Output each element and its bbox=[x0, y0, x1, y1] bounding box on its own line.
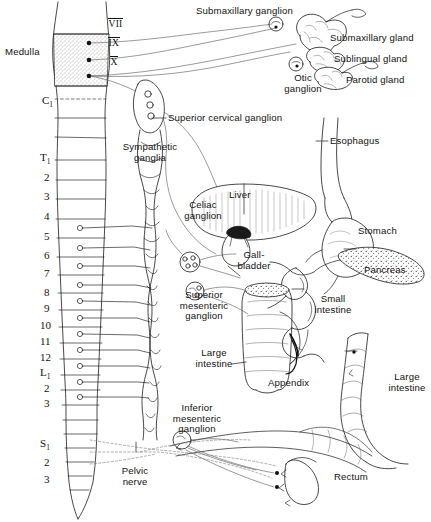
large-intestine-center bbox=[242, 283, 308, 393]
sympathetic-chain bbox=[138, 130, 163, 440]
liver bbox=[192, 184, 316, 240]
esophagus bbox=[321, 118, 352, 222]
autonomic-nervous-system-figure: Medulla VII IX X Submaxillary ganglion O… bbox=[0, 0, 431, 522]
rectum bbox=[275, 458, 319, 507]
colon-sigmoid-sweep bbox=[170, 427, 372, 472]
diagram-artwork bbox=[0, 0, 431, 522]
pancreas bbox=[292, 247, 424, 284]
large-intestine-right bbox=[341, 333, 408, 469]
superior-mesenteric-ganglion bbox=[186, 282, 248, 314]
cord-segment-lines bbox=[55, 118, 106, 490]
gallbladder bbox=[222, 226, 251, 266]
otic-ganglion-symbol bbox=[289, 57, 303, 71]
label-leader-lines bbox=[136, 118, 357, 452]
cranial-nerve-fibers bbox=[91, 24, 296, 77]
sympathetic-preganglionic-fibers bbox=[83, 226, 152, 398]
superior-cervical-ganglion bbox=[133, 80, 164, 133]
submaxillary-gland bbox=[297, 9, 366, 53]
lateral-horn-neurons bbox=[77, 225, 82, 399]
pelvic-nerve bbox=[90, 440, 276, 478]
